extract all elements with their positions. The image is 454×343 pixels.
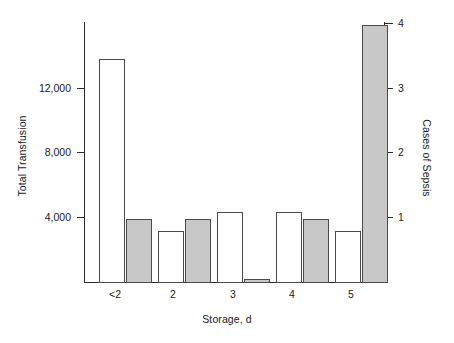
bar-total-transfusion-3 [276, 212, 302, 283]
y-right-tick-label-4: 4 [398, 17, 428, 29]
x-axis-title: Storage, d [0, 313, 454, 325]
x-tick-label-3: 4 [262, 288, 322, 300]
y-left-tick-4000 [77, 217, 85, 218]
x-tick-label-0: <2 [85, 288, 145, 300]
y-axis-right-title: Cases of Sepsis [421, 88, 433, 228]
y-left-tick-8000 [77, 152, 85, 153]
bar-cases-of-sepsis-2 [244, 279, 270, 283]
y-right-tick-4 [385, 23, 393, 24]
bar-total-transfusion-2 [217, 212, 243, 283]
x-tick-label-1: 2 [143, 288, 203, 300]
chart-figure: 12,000 8,000 4,000 Total Transfusion 4 3… [0, 0, 454, 343]
bar-total-transfusion-1 [158, 231, 184, 283]
y-axis-left-title: Total Transfusion [16, 86, 28, 226]
x-tick-label-4: 5 [321, 288, 381, 300]
bar-cases-of-sepsis-4 [362, 25, 388, 283]
bar-cases-of-sepsis-1 [185, 219, 211, 284]
bar-cases-of-sepsis-0 [126, 219, 152, 284]
bar-total-transfusion-0 [99, 59, 125, 283]
x-tick-label-2: 3 [203, 288, 263, 300]
bar-cases-of-sepsis-3 [303, 219, 329, 284]
y-left-tick-12000 [77, 88, 85, 89]
bar-total-transfusion-4 [335, 231, 361, 283]
